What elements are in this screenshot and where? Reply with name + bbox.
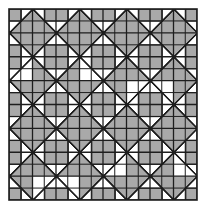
lattice-vertex xyxy=(31,150,35,154)
lattice-vertex xyxy=(125,150,129,154)
solid-diamond xyxy=(198,200,206,212)
solid-diamond xyxy=(198,9,206,57)
lattice-vertex xyxy=(172,103,176,107)
lattice-vertex xyxy=(78,55,82,59)
lattice-vertex xyxy=(149,79,153,83)
lattice-vertex xyxy=(102,174,106,178)
lattice-vertex xyxy=(102,79,106,83)
lattice-vertex xyxy=(149,174,153,178)
lattice-vertex xyxy=(55,79,59,83)
lattice-vertex xyxy=(55,31,59,35)
center-square xyxy=(186,0,205,21)
solid-diamond xyxy=(198,57,206,105)
lattice-vertex xyxy=(149,127,153,131)
lattice-vertex xyxy=(149,31,153,35)
quilt-pattern xyxy=(0,0,205,212)
solid-diamond xyxy=(198,105,206,153)
lattice-vertex xyxy=(55,127,59,131)
center-square xyxy=(0,0,21,21)
solid-diamond xyxy=(10,200,57,212)
lattice-vertex xyxy=(102,127,106,131)
quilt-tiles xyxy=(0,0,205,212)
solid-diamond xyxy=(151,200,198,212)
solid-diamond xyxy=(57,200,104,212)
solid-diamond xyxy=(104,200,151,212)
quilt-figure xyxy=(0,0,205,212)
lattice-vertex xyxy=(31,103,35,107)
lattice-vertex xyxy=(78,103,82,107)
lattice-vertex xyxy=(172,55,176,59)
solid-diamond xyxy=(198,152,206,200)
lattice-vertex xyxy=(102,31,106,35)
lattice-vertex xyxy=(125,103,129,107)
lattice-vertex xyxy=(78,150,82,154)
lattice-vertex xyxy=(172,150,176,154)
lattice-vertex xyxy=(55,174,59,178)
lattice-vertex xyxy=(31,55,35,59)
lattice-vertex xyxy=(125,55,129,59)
